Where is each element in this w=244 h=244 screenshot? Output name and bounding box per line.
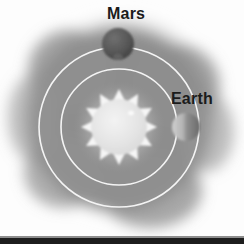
solar-system-canvas — [0, 0, 244, 244]
solar-system-figure: Mars Earth — [0, 0, 244, 244]
bottom-band — [0, 238, 244, 244]
planet-label-earth: Earth — [171, 91, 213, 107]
planet-label-mars: Mars — [107, 6, 145, 22]
